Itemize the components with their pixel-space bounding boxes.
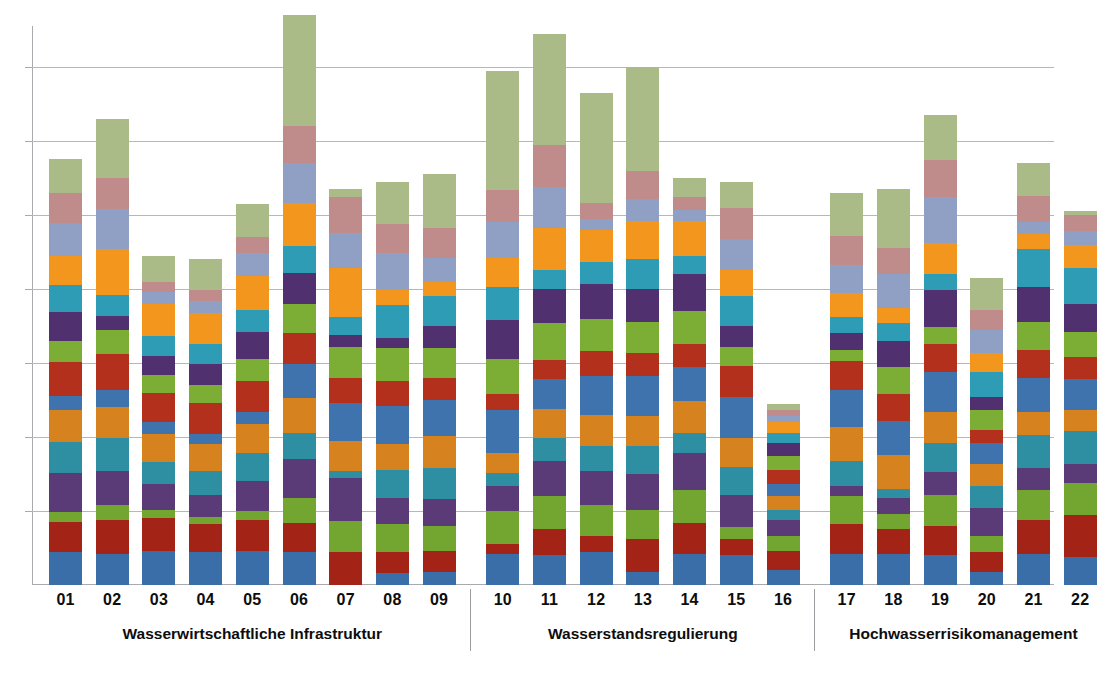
bar-01[interactable] — [49, 159, 82, 585]
bar-segment-green — [626, 510, 659, 540]
bar-segment-teal — [673, 433, 706, 454]
bar-segment-darkred — [423, 551, 456, 572]
bar-segment-red — [970, 430, 1003, 443]
bar-segment-blue — [376, 573, 409, 585]
bar-segment-steelblue — [626, 376, 659, 416]
bar-06[interactable] — [283, 15, 316, 585]
y-axis-tick — [25, 141, 32, 142]
x-axis-label-22: 22 — [1064, 591, 1097, 609]
bar-segment-cyan — [767, 433, 800, 443]
group-separator — [814, 589, 815, 651]
bar-segment-orange — [626, 416, 659, 446]
bar-segment-periwinkle — [283, 163, 316, 203]
bar-segment-purple — [376, 498, 409, 525]
bar-segment-green — [423, 526, 456, 551]
bar-segment-orange — [423, 436, 456, 469]
bar-segment-green — [924, 495, 957, 526]
bar-segment-teal — [1064, 431, 1097, 464]
bar-segment-violet — [142, 356, 175, 375]
bar-18[interactable] — [877, 189, 910, 585]
bar-07[interactable] — [329, 189, 362, 585]
bar-05[interactable] — [236, 204, 269, 585]
bar-segment-steelblue — [283, 364, 316, 398]
bar-04[interactable] — [189, 259, 222, 585]
y-axis-tick — [25, 215, 32, 216]
bar-segment-rose — [924, 160, 957, 197]
bar-segment-blue — [924, 555, 957, 585]
bar-segment-cyan — [283, 246, 316, 273]
bar-12[interactable] — [580, 93, 613, 585]
bar-segment-purple — [283, 459, 316, 498]
bar-10[interactable] — [486, 71, 519, 585]
bar-20[interactable] — [970, 278, 1003, 585]
bar-segment-sage — [877, 189, 910, 247]
bar-09[interactable] — [423, 174, 456, 585]
bar-segment-amber — [236, 276, 269, 310]
group-separator — [470, 589, 471, 651]
bar-segment-darkred — [49, 522, 82, 552]
bar-segment-periwinkle — [970, 330, 1003, 352]
bar-segment-red — [49, 362, 82, 396]
bar-segment-periwinkle — [236, 253, 269, 275]
bar-segment-red — [626, 353, 659, 377]
bar-segment-teal — [486, 473, 519, 486]
bar-15[interactable] — [720, 182, 753, 585]
bar-segment-cyan — [376, 305, 409, 338]
bar-segment-teal — [329, 471, 362, 478]
bar-segment-cyan — [423, 296, 456, 326]
x-axis-label-20: 20 — [970, 591, 1003, 609]
bar-segment-red — [830, 361, 863, 389]
bar-segment-violet — [189, 364, 222, 385]
bar-segment-teal — [1017, 435, 1050, 468]
bar-segment-orange — [924, 412, 957, 443]
bar-segment-red — [924, 344, 957, 372]
bar-segment-sage — [189, 259, 222, 290]
bar-segment-teal — [580, 446, 613, 471]
bar-16[interactable] — [767, 404, 800, 585]
bar-08[interactable] — [376, 182, 409, 585]
bar-segment-amber — [673, 221, 706, 257]
bar-segment-amber — [49, 256, 82, 286]
bar-segment-purple — [1017, 468, 1050, 490]
bar-segment-blue — [970, 572, 1003, 585]
bar-segment-steelblue — [720, 397, 753, 438]
bar-segment-periwinkle — [376, 253, 409, 290]
bar-segment-violet — [767, 443, 800, 456]
bar-segment-cyan — [1017, 249, 1050, 288]
bar-segment-rose — [49, 193, 82, 223]
bar-segment-blue — [533, 555, 566, 585]
bar-14[interactable] — [673, 178, 706, 585]
bar-segment-darkred — [96, 520, 129, 554]
bar-segment-blue — [96, 554, 129, 585]
bar-segment-red — [423, 378, 456, 400]
group-caption-2: Wasserstandsregulierung — [486, 625, 799, 643]
bar-13[interactable] — [626, 67, 659, 585]
bar-segment-steelblue — [673, 367, 706, 401]
bar-segment-orange — [142, 434, 175, 462]
bar-segment-periwinkle — [486, 222, 519, 258]
bar-segment-lightgreen — [189, 385, 222, 403]
bar-03[interactable] — [142, 256, 175, 585]
x-axis-label-03: 03 — [142, 591, 175, 609]
bar-11[interactable] — [533, 34, 566, 585]
bar-17[interactable] — [830, 193, 863, 585]
bar-segment-amber — [924, 243, 957, 274]
bar-segment-blue — [423, 572, 456, 585]
bar-21[interactable] — [1017, 163, 1050, 585]
bar-22[interactable] — [1064, 211, 1097, 585]
bar-segment-sage — [580, 93, 613, 203]
bar-segment-sage — [486, 71, 519, 190]
bar-segment-purple — [49, 473, 82, 512]
bar-segment-darkred — [767, 551, 800, 570]
bar-19[interactable] — [924, 115, 957, 585]
bar-segment-blue — [626, 572, 659, 585]
bar-02[interactable] — [96, 119, 129, 585]
bar-segment-green — [376, 524, 409, 552]
bar-segment-cyan — [236, 310, 269, 332]
bar-segment-green — [329, 521, 362, 552]
bar-segment-purple — [877, 498, 910, 514]
bar-segment-teal — [236, 453, 269, 481]
bar-segment-lightgreen — [877, 367, 910, 394]
bar-segment-violet — [830, 333, 863, 349]
bar-segment-rose — [970, 310, 1003, 331]
